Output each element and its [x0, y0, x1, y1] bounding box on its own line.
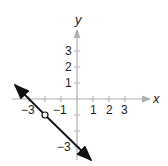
- y-tick-label: 2: [65, 61, 72, 73]
- x-tick-label: −3: [21, 104, 35, 116]
- x-tick-label: 1: [90, 104, 97, 116]
- open-circle-point: [42, 112, 48, 118]
- x-axis-label: x: [153, 92, 160, 105]
- y-axis-label: y: [75, 13, 82, 26]
- coordinate-plane: [0, 0, 168, 166]
- y-tick-label: −3: [57, 141, 71, 153]
- x-tick-label: 2: [106, 104, 113, 116]
- graph-figure: y x −3 −1 1 2 3 3 2 1 −3: [0, 0, 168, 166]
- x-tick-label: 3: [121, 104, 128, 116]
- y-tick-label: 3: [65, 45, 72, 57]
- x-tick-label: −1: [53, 104, 67, 116]
- y-tick-label: 1: [65, 77, 72, 89]
